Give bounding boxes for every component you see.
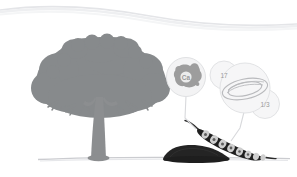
seed-fraction-label: 1/3 — [260, 101, 269, 108]
mineral-callout[interactable]: Ca — [167, 58, 206, 97]
seed-count-label: 17 — [220, 72, 228, 79]
illustration-canvas: Ca 17 1/3 — [0, 0, 297, 177]
scene-svg: Ca 17 1/3 — [0, 0, 297, 177]
mineral-symbol-label: Ca — [182, 74, 191, 81]
